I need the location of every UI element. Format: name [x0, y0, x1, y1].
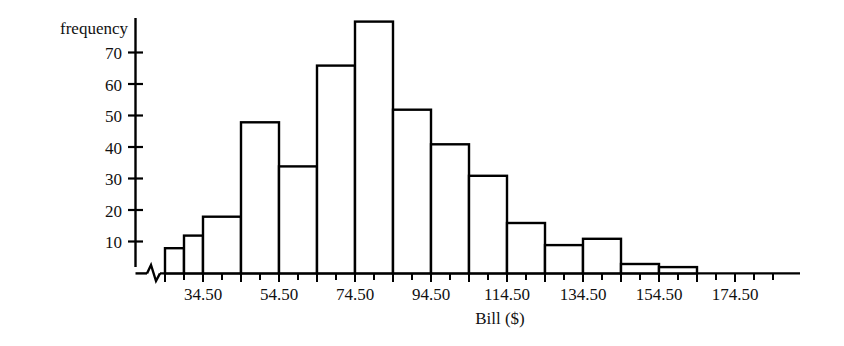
axis-break-zigzag	[147, 265, 160, 281]
y-tick-label-50: 50	[105, 107, 122, 126]
x-tick-label-8: 174.50	[712, 285, 759, 304]
bar-9	[431, 144, 469, 273]
bar-6	[317, 66, 355, 274]
x-tick-label-7: 154.50	[636, 285, 683, 304]
bar-5	[279, 166, 317, 273]
bar-12	[545, 245, 583, 273]
bar-7	[355, 22, 393, 274]
x-tick-label-3: 74.50	[336, 285, 374, 304]
x-tick-label-4: 94.50	[412, 285, 450, 304]
y-tick-label-20: 20	[105, 202, 122, 221]
bar-10	[469, 176, 507, 274]
bar-1	[165, 248, 184, 273]
y-axis-title: frequency	[60, 19, 128, 38]
x-tick-label-1: 34.50	[184, 285, 222, 304]
x-tick-label-2: 54.50	[260, 285, 298, 304]
bar-15	[659, 267, 697, 273]
x-axis-title: Bill ($)	[475, 309, 525, 328]
y-tick-label-70: 70	[105, 44, 122, 63]
x-tick-label-5: 114.50	[484, 285, 530, 304]
y-tick-label-30: 30	[105, 170, 122, 189]
bar-14	[621, 264, 659, 273]
x-tick-label-6: 134.50	[560, 285, 607, 304]
bar-11	[507, 223, 545, 273]
bar-4	[241, 122, 279, 273]
histogram-figure: 70 60 50 40 30 20 10 frequency	[0, 0, 844, 346]
bar-8	[393, 110, 431, 274]
y-tick-label-60: 60	[105, 76, 122, 95]
y-tick-label-40: 40	[105, 139, 122, 158]
bar-13	[583, 239, 621, 274]
bar-3	[203, 217, 241, 274]
histogram-svg: 70 60 50 40 30 20 10 frequency	[0, 0, 844, 346]
y-tick-label-10: 10	[105, 233, 122, 252]
bar-2	[184, 236, 203, 274]
x-axis-ticks	[165, 273, 773, 282]
histogram-bars	[165, 22, 697, 274]
